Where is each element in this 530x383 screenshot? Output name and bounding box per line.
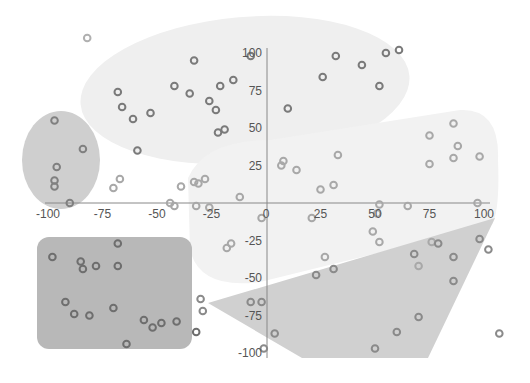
x-tick-label: 75 (423, 207, 437, 221)
data-point (496, 330, 503, 337)
y-tick-label: 50 (249, 121, 263, 135)
data-point (193, 329, 200, 336)
data-point (396, 47, 403, 54)
x-tick-label: -25 (203, 207, 221, 221)
data-point (110, 185, 117, 192)
scatter-chart: -100-75-50-250255075100100755025-25-50-7… (0, 0, 530, 383)
x-tick-label: -100 (36, 207, 60, 221)
y-tick-label: -100 (238, 346, 262, 360)
y-tick-label: 100 (242, 46, 262, 60)
x-tick-label: 50 (368, 207, 382, 221)
bottom-left-rect-region (37, 237, 192, 349)
series-outliers (84, 35, 91, 42)
x-tick-label: 25 (314, 207, 328, 221)
x-tick-label: 100 (474, 207, 494, 221)
y-tick-label: -75 (245, 309, 263, 323)
data-point (200, 308, 207, 315)
data-point (84, 35, 91, 42)
x-tick-label: -50 (148, 207, 166, 221)
data-point (485, 246, 492, 253)
y-tick-label: -25 (245, 234, 263, 248)
y-tick-label: 75 (249, 84, 263, 98)
data-point (197, 296, 204, 303)
y-tick-label: 25 (249, 159, 263, 173)
data-point (178, 183, 185, 190)
data-point (117, 176, 124, 183)
x-tick-label: -75 (94, 207, 112, 221)
left-ellipse-region (22, 111, 100, 209)
y-tick-label: -50 (245, 271, 263, 285)
x-tick-label: 0 (263, 207, 270, 221)
